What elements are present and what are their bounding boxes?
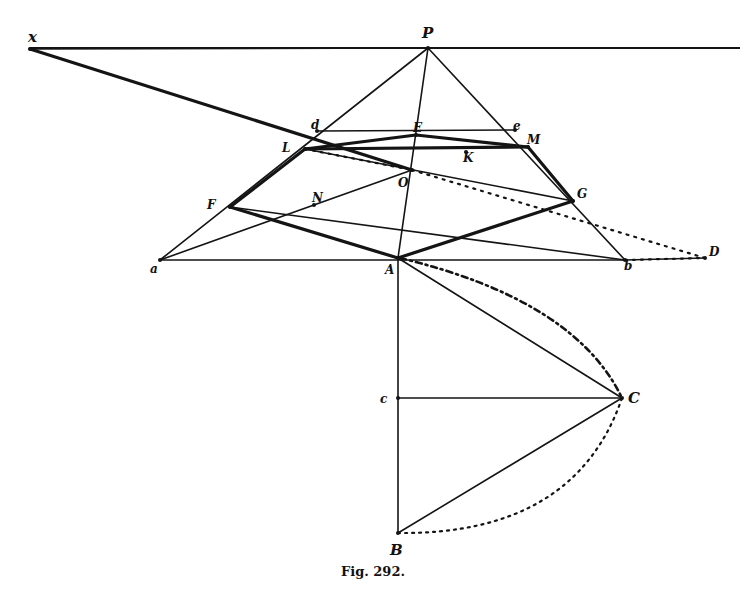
label-b: b	[624, 259, 632, 273]
label-B: B	[389, 541, 403, 559]
segment-A-C	[398, 258, 622, 398]
figure-caption: Fig. 292.	[341, 564, 405, 579]
point-B	[396, 531, 400, 535]
point-O	[410, 168, 414, 172]
segment-L-F	[230, 149, 305, 207]
label-e: e	[513, 119, 521, 133]
point-A	[396, 256, 400, 260]
label-L: L	[281, 141, 290, 155]
label-K: K	[462, 151, 474, 165]
point-a	[158, 258, 162, 262]
point-x	[28, 47, 32, 51]
point-D	[703, 256, 707, 260]
point-L	[303, 147, 307, 151]
label-N: N	[311, 191, 324, 205]
label-M: M	[526, 133, 541, 147]
label-a: a	[150, 262, 158, 276]
label-P: P	[421, 24, 434, 42]
arcs	[398, 258, 622, 533]
point-F	[228, 205, 232, 209]
thin-construction-lines	[30, 48, 705, 533]
label-x: x	[27, 28, 38, 46]
segment-P-A	[398, 48, 428, 258]
point-C	[620, 396, 624, 400]
label-C: C	[628, 389, 640, 407]
segment-L-M	[305, 147, 528, 149]
thick-outline-lines	[30, 49, 573, 258]
label-d: d	[311, 118, 320, 132]
label-G: G	[577, 187, 587, 201]
segment-F-b	[230, 207, 625, 260]
geometric-construction-figure: xPabDAdeLMEKOFGNcCB Fig. 292.	[0, 0, 746, 601]
label-E: E	[412, 121, 423, 135]
segment-P-b	[428, 48, 625, 260]
label-D: D	[708, 245, 720, 259]
label-F: F	[206, 198, 217, 212]
segment-x-O	[30, 49, 412, 170]
point-P	[426, 46, 430, 50]
segment-F-A	[230, 207, 398, 258]
label-O: O	[398, 176, 409, 190]
point-labels: xPabDAdeLMEKOFGNcCB	[27, 24, 720, 559]
label-A: A	[384, 263, 394, 277]
point-G	[571, 199, 575, 203]
segment-B-C	[398, 398, 622, 533]
point-c	[396, 396, 400, 400]
label-c: c	[380, 392, 388, 406]
vertex-dots	[28, 46, 707, 535]
